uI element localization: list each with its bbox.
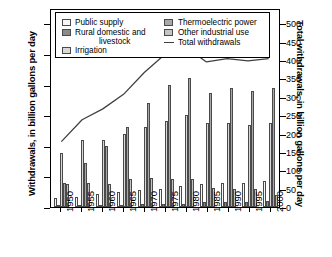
- legend-label-total-withdrawals: Total withdrawals: [178, 38, 240, 47]
- legend-line-total-withdrawals: [164, 42, 174, 43]
- y-right-tick-label: 200: [286, 130, 326, 140]
- chart-figure: Withdrawals, in billion gallons per day …: [0, 0, 332, 257]
- y-left-tick-mark: [44, 24, 50, 25]
- legend-swatch-public-supply: [62, 19, 71, 26]
- x-axis-tick-mark: [228, 208, 229, 212]
- y-right-tick-mark: [280, 153, 286, 154]
- legend-swatch-rural-domestic: [62, 29, 71, 36]
- y-left-tick-mark: [44, 177, 50, 178]
- x-axis-tick-mark: [270, 208, 271, 212]
- x-axis-tick-mark: [249, 208, 250, 212]
- x-axis-tick-mark: [207, 208, 208, 212]
- y-right-tick-label: 500: [286, 19, 326, 29]
- y-right-tick-label: 400: [286, 56, 326, 66]
- legend-label-thermoelectric: Thermoelectric power: [178, 18, 257, 27]
- y-right-tick-mark: [280, 98, 286, 99]
- legend-label-irrigation: Irrigation: [75, 46, 107, 55]
- x-axis-tick-label: 1970: [148, 191, 159, 212]
- x-axis-tick-label: 1995: [253, 191, 264, 212]
- y-right-tick-mark: [280, 135, 286, 136]
- y-left-tick-mark: [44, 147, 50, 148]
- y-axis-left-title: Withdrawals, in billion gallons per day: [26, 19, 37, 209]
- y-right-tick-mark: [280, 43, 286, 44]
- x-axis-tick-mark: [81, 208, 82, 212]
- y-left-tick-mark: [44, 86, 50, 87]
- legend-swatch-irrigation: [62, 47, 71, 54]
- legend-swatch-other-industrial: [164, 29, 173, 36]
- legend-label-rural-domestic-2: livestock: [99, 37, 130, 46]
- y-right-tick-label: 50: [286, 185, 326, 195]
- y-right-tick-mark: [280, 171, 286, 172]
- chart-legend: Public supply Rural domestic and livesto…: [55, 12, 270, 58]
- x-axis-tick-label: 1965: [127, 191, 138, 212]
- legend-label-public-supply: Public supply: [75, 18, 123, 27]
- y-right-tick-label: 350: [286, 74, 326, 84]
- legend-swatch-thermoelectric: [164, 19, 173, 26]
- y-right-tick-mark: [280, 24, 286, 25]
- legend-label-other-industrial: Other industrial use: [178, 28, 249, 37]
- x-axis-tick-mark: [60, 208, 61, 212]
- x-axis-tick-label: 2000: [274, 191, 285, 212]
- y-left-tick-mark: [44, 55, 50, 56]
- x-axis-tick-label: 1990: [232, 191, 243, 212]
- y-right-tick-label: 0: [286, 203, 326, 213]
- y-right-tick-mark: [280, 116, 286, 117]
- x-axis-tick-mark: [123, 208, 124, 212]
- x-axis-tick-mark: [165, 208, 166, 212]
- y-left-tick-mark: [44, 208, 50, 209]
- x-axis-tick-label: 1980: [190, 191, 201, 212]
- y-right-tick-label: 250: [286, 111, 326, 121]
- x-axis-tick-label: 1975: [169, 191, 180, 212]
- x-axis-tick-mark: [186, 208, 187, 212]
- legend-label-rural-domestic: Rural domestic and: [75, 28, 146, 37]
- x-axis-tick-label: 1985: [211, 191, 222, 212]
- x-axis-tick-mark: [144, 208, 145, 212]
- y-right-tick-label: 100: [286, 166, 326, 176]
- x-axis-tick-label: 1955: [85, 191, 96, 212]
- y-right-tick-label: 300: [286, 93, 326, 103]
- x-axis-tick-label: 1950: [64, 191, 75, 212]
- y-right-tick-mark: [280, 61, 286, 62]
- y-left-tick-mark: [44, 116, 50, 117]
- x-axis-tick-label: 1960: [106, 191, 117, 212]
- y-right-tick-label: 150: [286, 148, 326, 158]
- y-right-tick-label: 450: [286, 38, 326, 48]
- x-axis-tick-mark: [102, 208, 103, 212]
- y-right-tick-mark: [280, 79, 286, 80]
